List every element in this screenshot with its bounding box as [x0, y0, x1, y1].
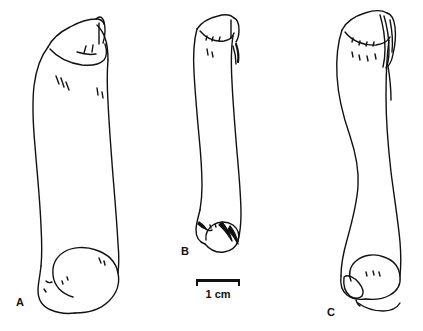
- specimen-a-rim-dash: [77, 52, 96, 54]
- specimen-a-left-shaft: [33, 47, 48, 266]
- specimen-a-hatch-2: [61, 78, 64, 87]
- specimen-a-mark-3: [46, 281, 52, 283]
- specimen-b-drawing: [194, 15, 241, 252]
- specimen-a-mark-7: [99, 258, 101, 263]
- specimen-b-right-shaft: [231, 36, 241, 241]
- scale-bar-tick-left: [196, 279, 198, 286]
- specimen-label-c: C: [327, 307, 335, 318]
- specimen-c-process-inner-2: [380, 15, 385, 67]
- specimen-a-hatch-1: [56, 76, 59, 84]
- specimen-label-a: A: [16, 297, 24, 308]
- specimen-b-hatch-1: [206, 36, 207, 40]
- specimen-b-mark-2: [210, 225, 211, 228]
- specimen-c-mark-3: [379, 272, 380, 276]
- specimen-c-distal-condyle: [350, 255, 401, 299]
- specimen-b-hatch-2: [212, 37, 213, 41]
- specimen-c-shade-line: [388, 66, 391, 100]
- specimen-c-proximal-rim: [342, 11, 387, 30]
- specimen-a-distal-left: [38, 266, 75, 313]
- specimen-a-mark-2: [102, 92, 103, 98]
- specimen-c-right-shaft: [386, 40, 401, 276]
- specimen-c-hatch-1: [352, 38, 353, 42]
- specimen-b-mark-3: [215, 224, 216, 227]
- figure-canvas: A B C 1 cm: [0, 0, 423, 331]
- specimen-b-cotyla: [200, 31, 234, 41]
- specimen-b-mark-4: [223, 224, 224, 227]
- specimen-c-mark-2: [373, 271, 374, 275]
- specimen-a-hatch-4: [84, 46, 86, 53]
- specimen-c-hatch-5: [352, 52, 353, 57]
- specimen-c-process-inner-3: [390, 20, 392, 52]
- specimen-b-shade-wedge-3: [198, 222, 206, 229]
- specimen-c-mark-1: [366, 272, 367, 276]
- specimen-b-hatch-5: [212, 52, 213, 57]
- specimen-c-hatch-2: [359, 41, 360, 45]
- specimen-a-distal-condyle: [53, 248, 119, 313]
- scale-bar-line: [196, 279, 240, 282]
- specimen-b-proximal-process: [234, 18, 239, 42]
- specimen-a-hatch-3: [66, 82, 69, 90]
- specimen-a-mark-1: [97, 88, 98, 95]
- specimen-c-left-shaft: [337, 30, 358, 276]
- specimen-c-hatch-7: [367, 56, 368, 61]
- specimen-c-hatch-4: [373, 42, 374, 46]
- specimen-a-mark-5: [62, 281, 63, 284]
- scale-bar: 1 cm: [196, 279, 240, 303]
- specimen-c-drawing: [337, 11, 401, 311]
- specimen-c-hatch-6: [359, 55, 360, 60]
- specimen-label-b: B: [181, 246, 189, 257]
- specimen-b-hatch-4: [207, 49, 208, 55]
- specimen-a-hatch-5: [92, 45, 93, 52]
- specimen-a-proximal-rim-outer: [48, 19, 104, 47]
- specimen-b-shade-2: [233, 46, 236, 64]
- specimen-a-mark-6: [67, 277, 68, 280]
- specimen-a-mark-8: [104, 261, 105, 265]
- specimen-a-cotyla: [50, 44, 106, 65]
- specimen-c-cotyla: [345, 32, 390, 45]
- specimen-b-left-shaft: [194, 29, 202, 210]
- specimen-a-drawing: [33, 17, 119, 313]
- specimen-b-hatch-3: [219, 37, 220, 41]
- scale-bar-tick-right: [238, 279, 240, 286]
- specimen-a-right-shaft: [107, 60, 119, 273]
- specimen-c-flange-join: [356, 300, 360, 306]
- specimen-c-hatch-8: [375, 54, 376, 59]
- scale-bar-label: 1 cm: [196, 288, 240, 300]
- specimen-b-proximal-rim: [197, 15, 234, 29]
- specimen-c-distal-flange: [358, 303, 400, 311]
- specimen-a-mark-4: [44, 289, 46, 292]
- specimen-c-hatch-3: [366, 42, 367, 46]
